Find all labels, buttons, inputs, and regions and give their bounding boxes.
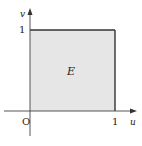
x-axis-arrow-icon — [130, 109, 137, 114]
y-axis-arrow-icon — [28, 8, 33, 15]
y-axis-label: v — [20, 9, 25, 19]
x-tick-label: 1 — [112, 116, 118, 127]
y-tick-label: 1 — [19, 24, 25, 35]
x-axis-label: u — [130, 117, 136, 127]
diagram-canvas: v 1 E O 1 u — [0, 0, 142, 146]
region-label: E — [66, 65, 75, 78]
origin-label: O — [22, 116, 30, 127]
